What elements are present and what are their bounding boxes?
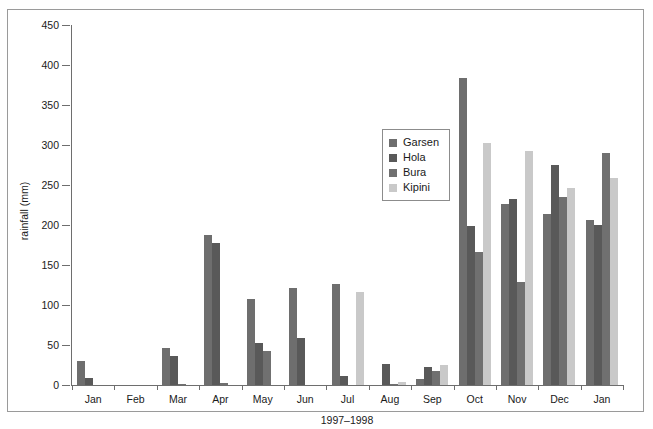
x-axis-tick-label: May [253,393,273,405]
legend-swatch-icon [389,154,397,162]
y-axis-tick-label: 300 [41,140,59,150]
bar-kipini-oct-9 [483,143,491,385]
x-axis-tick-label: Aug [381,393,400,405]
bar-group: Oct [454,25,496,385]
x-axis-tick-label: Nov [508,393,527,405]
y-axis-tick [62,345,70,346]
y-axis-title: rainfall (mm) [18,181,30,239]
x-axis-tick [623,385,624,390]
x-axis-tick-label: Jan [593,393,610,405]
bar-hola-jul-6 [340,376,348,385]
y-axis-tick-label: 200 [41,220,59,230]
y-axis-tick-label: 0 [53,380,59,390]
y-axis-tick [62,105,70,106]
bar-bura-jan-12 [602,153,610,385]
bar-bura-sep-8 [432,371,440,385]
bar-group: Jan [72,25,114,385]
bar-group: Apr [199,25,241,385]
bar-garsen-jan-12 [586,220,594,385]
bar-hola-apr-3 [212,243,220,385]
bar-garsen-dec-11 [543,214,551,385]
bar-kipini-dec-11 [567,188,575,385]
legend-item-label: Garsen [403,137,439,148]
bar-group: Sep [411,25,453,385]
bar-group: May [242,25,284,385]
x-axis-tick [454,385,455,390]
x-axis-tick-label: Dec [550,393,569,405]
bar-group: Dec [538,25,580,385]
bar-garsen-jul-6 [332,284,340,385]
x-axis-tick [284,385,285,390]
x-axis-tick [199,385,200,390]
x-axis-tick-label: Apr [212,393,228,405]
bar-hola-jan-0 [85,378,93,385]
bar-garsen-apr-3 [204,235,212,385]
bar-garsen-mar-2 [162,348,170,385]
x-axis-title: 1997–1998 [71,414,623,426]
y-axis-tick [62,305,70,306]
y-axis-tick [62,385,70,386]
y-axis-tick-label: 150 [41,260,59,270]
bar-garsen-jun-5 [289,288,297,385]
y-axis-tick-label: 350 [41,100,59,110]
x-axis-tick-label: Jun [297,393,314,405]
bar-garsen-oct-9 [459,78,467,385]
bar-hola-aug-7 [382,364,390,385]
legend-item-label: Hola [403,152,426,163]
bar-bura-oct-9 [475,252,483,385]
bar-kipini-aug-7 [398,382,406,385]
bar-hola-jan-12 [594,225,602,385]
x-axis-tick [157,385,158,390]
y-axis-tick-label: 400 [41,60,59,70]
bar-garsen-sep-8 [416,379,424,385]
legend-swatch-icon [389,139,397,147]
legend-item-label: Bura [403,167,426,178]
x-axis-tick [411,385,412,390]
bar-group: Jul [326,25,368,385]
bar-hola-dec-11 [551,165,559,385]
bar-group: Feb [114,25,156,385]
bar-garsen-nov-10 [501,204,509,385]
bar-bura-aug-7 [390,384,398,385]
bar-garsen-may-4 [247,299,255,385]
legend-item-bura[interactable]: Bura [389,165,439,180]
y-axis-tick [62,65,70,66]
x-axis-tick [242,385,243,390]
bar-hola-sep-8 [424,367,432,385]
x-axis-tick [72,385,73,390]
legend-swatch-icon [389,169,397,177]
y-axis-tick [62,185,70,186]
bar-hola-jun-5 [297,338,305,385]
x-axis-tick-label: Jan [85,393,102,405]
bar-group: Nov [496,25,538,385]
y-axis-tick-label: 50 [47,340,59,350]
legend-item-garsen[interactable]: Garsen [389,135,439,150]
chart-legend: GarsenHolaBuraKipini [382,129,450,201]
legend-item-label: Kipini [403,182,430,193]
x-axis-tick-label: Feb [127,393,145,405]
x-axis-tick [326,385,327,390]
x-axis-tick-label: Sep [423,393,442,405]
bar-hola-nov-10 [509,199,517,385]
bar-kipini-sep-8 [440,365,448,385]
y-axis-tick [62,265,70,266]
bar-bura-may-4 [263,351,271,385]
bar-bura-dec-11 [559,197,567,385]
y-axis-tick-label: 450 [41,20,59,30]
x-axis-tick [369,385,370,390]
y-axis-tick [62,145,70,146]
bar-group: Jan [581,25,623,385]
x-axis-line [71,385,623,386]
bar-group: Jun [284,25,326,385]
x-axis-tick [114,385,115,390]
bar-bura-mar-2 [178,384,186,385]
y-axis-tick-label: 250 [41,180,59,190]
plot-area: 050100150200250300350400450 JanFebMarApr… [71,25,623,386]
bar-hola-oct-9 [467,226,475,385]
y-axis-tick [62,25,70,26]
legend-item-hola[interactable]: Hola [389,150,439,165]
x-axis-tick [581,385,582,390]
y-axis-tick [62,225,70,226]
legend-item-kipini[interactable]: Kipini [389,180,439,195]
bar-groups: JanFebMarAprMayJunJulAugSepOctNovDecJan [72,25,623,385]
